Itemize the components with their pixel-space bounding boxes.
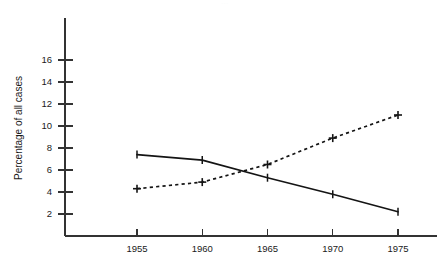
y-tick-label: 4 — [47, 186, 52, 197]
chart-figure: ... 246810121416 19551960196519701975 Pe… — [0, 0, 445, 272]
x-axis-ticks — [137, 229, 398, 236]
cropped-title-remnant: ... — [150, 0, 300, 5]
x-axis: 19551960196519701975 — [65, 229, 437, 254]
y-tick-label: 8 — [47, 142, 52, 153]
y-tick-label: 10 — [41, 120, 52, 131]
x-tick-label: 1960 — [192, 243, 213, 254]
y-tick-label: 12 — [41, 98, 52, 109]
x-tick-label: 1955 — [126, 243, 147, 254]
series-declining-markers — [137, 151, 398, 216]
y-tick-label: 14 — [41, 76, 52, 87]
y-tick-label: 6 — [47, 164, 52, 175]
x-axis-tick-labels: 19551960196519701975 — [126, 243, 408, 254]
y-axis: 246810121416 — [41, 18, 73, 236]
y-axis-tick-labels: 246810121416 — [41, 54, 52, 219]
plot-area — [133, 111, 402, 216]
line-chart: 246810121416 19551960196519701975 Percen… — [0, 0, 445, 272]
y-axis-title: Percentage of all cases — [13, 76, 24, 180]
x-tick-label: 1965 — [257, 243, 278, 254]
x-tick-label: 1975 — [387, 243, 408, 254]
y-tick-label: 16 — [41, 54, 52, 65]
x-tick-label: 1970 — [322, 243, 343, 254]
y-tick-label: 2 — [47, 208, 52, 219]
